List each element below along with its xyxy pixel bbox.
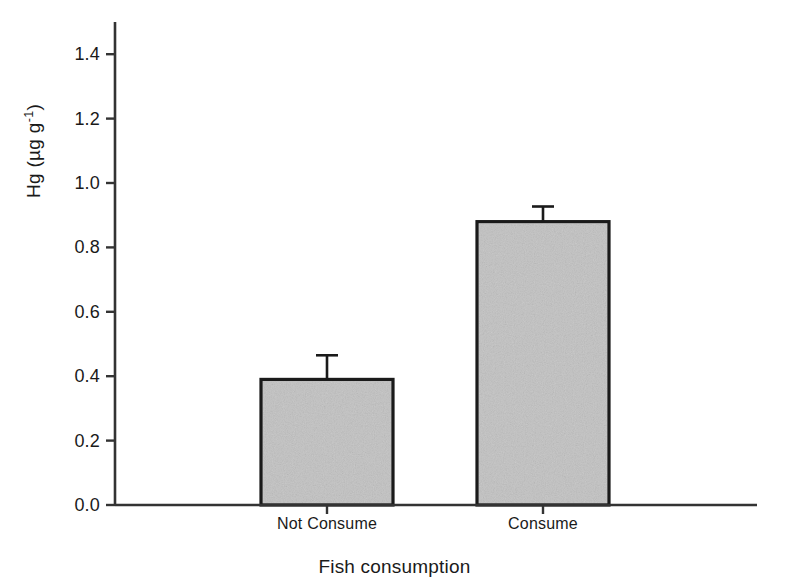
x-tick-label: Consume: [508, 516, 578, 532]
plot-area: [0, 0, 789, 587]
bar-consume: [477, 222, 609, 505]
bars-group: [261, 222, 609, 505]
bar-not-consume: [261, 379, 393, 505]
x-axis-title: Fish consumption: [0, 556, 789, 578]
x-tick-label: Not Consume: [277, 516, 377, 532]
bar-chart: Hg (µg g-1) 0.00.20.40.60.81.01.21.4 Not…: [0, 0, 789, 587]
axis-lines-group: [106, 22, 757, 514]
x-tick-label-group: Not ConsumeConsume: [0, 516, 789, 540]
